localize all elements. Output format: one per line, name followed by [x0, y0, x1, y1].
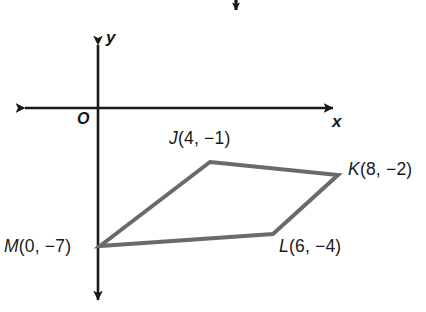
- vertex-label-l: L(6, −4): [279, 236, 341, 257]
- vertex-label-j: J(4, −1): [169, 128, 230, 149]
- polygon-jklm: [100, 162, 338, 246]
- vertex-label-m: M(0, −7): [4, 236, 71, 257]
- origin-label: O: [77, 110, 89, 128]
- x-axis-label: x: [332, 112, 341, 132]
- y-axis-label: y: [106, 28, 115, 48]
- geometry-figure: y x O J(4, −1) K(8, −2) L(6, −4) M(0, −7…: [0, 0, 426, 312]
- vertex-label-k: K(8, −2): [348, 159, 412, 180]
- coordinate-plane-svg: [0, 0, 426, 312]
